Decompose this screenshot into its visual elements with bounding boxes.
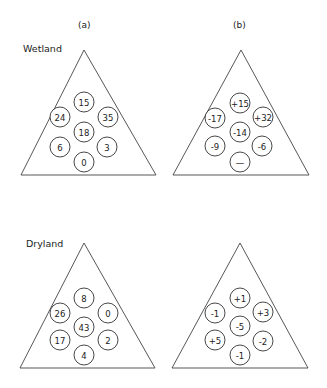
- circle-value: +1: [234, 294, 247, 304]
- circle-value: -5: [236, 322, 244, 332]
- panel-dryland-a: 8260431724: [20, 243, 155, 368]
- value-circle: -6: [252, 136, 272, 156]
- value-circle: +5: [205, 330, 225, 350]
- circle-value: 18: [79, 128, 90, 138]
- circle-value: -1: [236, 351, 244, 361]
- circle-value: 0: [105, 309, 110, 319]
- circle-value: 0: [81, 158, 86, 168]
- circle-value: -6: [258, 142, 266, 152]
- column-label-b: (b): [233, 20, 246, 30]
- circle-value: -1: [211, 309, 219, 319]
- circle-value: 17: [55, 336, 66, 346]
- circle-value: +3: [257, 308, 270, 318]
- value-circle: 15: [74, 92, 94, 112]
- triangle-diagram: (a) (b) Wetland Dryland 15243518630 +15-…: [0, 0, 327, 388]
- panel-wetland-a: 15243518630: [21, 50, 156, 175]
- value-circle: 8: [74, 288, 94, 308]
- value-circle: 2: [98, 330, 118, 350]
- circle-value: +32: [254, 113, 272, 123]
- column-label-a: (a): [78, 20, 91, 30]
- panel-dryland-b: +1-1+3-5+5-2-1: [172, 243, 308, 368]
- value-circle: -17: [205, 108, 225, 128]
- value-circle: 17: [50, 330, 70, 350]
- circle-value: 3: [104, 143, 109, 153]
- circle-value: +5: [209, 336, 222, 346]
- value-circle: -1: [205, 303, 225, 323]
- value-circle: 43: [74, 317, 94, 337]
- circle-value: 6: [57, 143, 62, 153]
- circle-value: 8: [81, 294, 86, 304]
- circle-value: -14: [233, 128, 247, 138]
- value-circle: -5: [230, 316, 250, 336]
- circle-value: +15: [231, 99, 249, 109]
- value-circle: 0: [74, 152, 94, 172]
- circle-value: 43: [79, 323, 90, 333]
- value-circle: 6: [50, 137, 70, 157]
- value-circle: 35: [98, 107, 118, 127]
- value-circle: +15: [230, 93, 250, 113]
- circle-value: 24: [55, 113, 66, 123]
- value-circle: +3: [253, 302, 273, 322]
- value-circle: -1: [230, 345, 250, 365]
- value-circle: 4: [74, 345, 94, 365]
- value-circle: 18: [74, 122, 94, 142]
- value-circle: 26: [50, 303, 70, 323]
- value-circle: 24: [50, 107, 70, 127]
- circle-value: -9: [211, 142, 219, 152]
- circle-value: -17: [208, 114, 222, 124]
- circle-value: -2: [259, 337, 267, 347]
- value-circle: -14: [230, 122, 250, 142]
- value-circle: —: [230, 152, 250, 172]
- circle-value: 2: [105, 336, 110, 346]
- value-circle: +32: [253, 107, 273, 127]
- row-label-dryland: Dryland: [26, 238, 63, 249]
- circle-value: 15: [79, 98, 90, 108]
- value-circle: 3: [97, 137, 117, 157]
- panel-wetland-b: +15-17+32-14-9-6—: [173, 50, 309, 175]
- circle-value: 26: [55, 309, 66, 319]
- row-label-wetland: Wetland: [23, 43, 62, 54]
- value-circle: -2: [253, 331, 273, 351]
- circle-value: —: [236, 158, 245, 168]
- circle-value: 35: [103, 113, 114, 123]
- circle-value: 4: [81, 351, 86, 361]
- value-circle: 0: [98, 303, 118, 323]
- value-circle: -9: [205, 136, 225, 156]
- value-circle: +1: [230, 288, 250, 308]
